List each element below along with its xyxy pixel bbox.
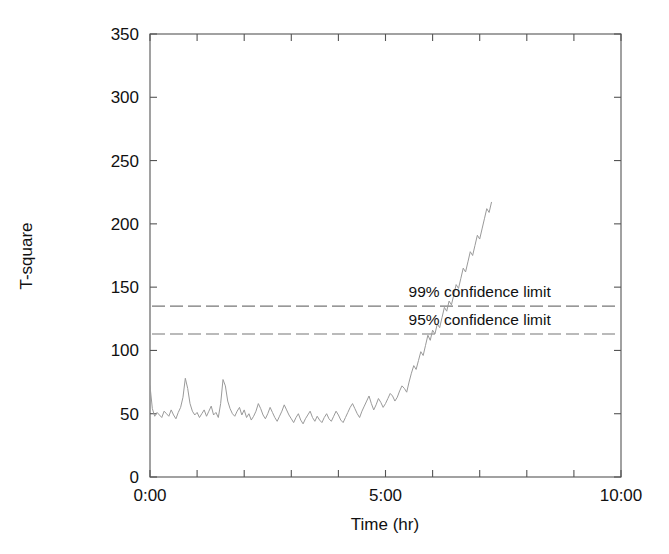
y-tick-label: 100 <box>111 341 139 360</box>
x-tick-label: 0:00 <box>133 486 166 505</box>
x-tick-label: 10:00 <box>600 486 643 505</box>
y-tick-label: 50 <box>120 405 139 424</box>
y-tick-label: 0 <box>130 468 139 487</box>
chart-background <box>0 0 669 554</box>
confidence-limit-label: 99% confidence limit <box>409 283 552 300</box>
y-tick-label: 250 <box>111 152 139 171</box>
y-tick-label: 150 <box>111 278 139 297</box>
t-square-control-chart: 050100150200250300350 0:005:0010:00 99% … <box>0 0 669 554</box>
confidence-limit-label: 95% confidence limit <box>409 311 552 328</box>
x-tick-label: 5:00 <box>369 486 402 505</box>
x-axis-title: Time (hr) <box>351 515 419 534</box>
y-axis-title: T-square <box>17 222 36 289</box>
y-tick-label: 350 <box>111 25 139 44</box>
chart-page: 050100150200250300350 0:005:0010:00 99% … <box>0 0 669 554</box>
y-tick-label: 200 <box>111 215 139 234</box>
y-tick-label: 300 <box>111 88 139 107</box>
